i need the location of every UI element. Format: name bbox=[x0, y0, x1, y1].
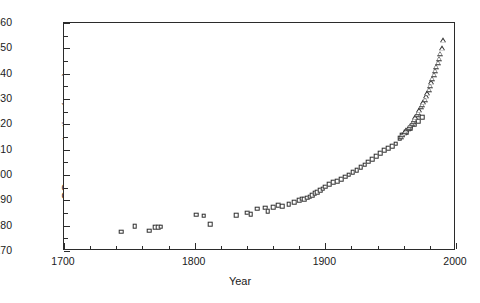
x-axis-tick-label: 1700 bbox=[51, 256, 74, 267]
y-axis-tick-label: 360 bbox=[0, 17, 12, 28]
data-point-square bbox=[318, 188, 323, 193]
x-axis-minor-tick bbox=[299, 246, 300, 250]
y-axis-tick-label: 300 bbox=[0, 169, 12, 180]
data-point-triangle bbox=[420, 100, 426, 105]
y-axis-minor-tick bbox=[64, 86, 68, 87]
data-point-square bbox=[194, 212, 199, 217]
data-point-square bbox=[394, 141, 399, 146]
data-point-triangle bbox=[423, 94, 429, 99]
data-point-square bbox=[366, 160, 371, 165]
data-point-square bbox=[347, 172, 352, 177]
data-point-square bbox=[331, 180, 336, 185]
data-point-square bbox=[378, 151, 383, 156]
data-point-square bbox=[119, 229, 124, 234]
data-point-square bbox=[370, 157, 375, 162]
data-point-square bbox=[374, 154, 379, 159]
data-point-square bbox=[416, 119, 421, 124]
data-point-square bbox=[420, 115, 425, 120]
data-point-square bbox=[358, 165, 363, 170]
data-point-square bbox=[339, 177, 344, 182]
data-point-square bbox=[315, 190, 320, 195]
data-point-square bbox=[297, 198, 302, 203]
x-axis-tick-label: 2000 bbox=[443, 256, 466, 267]
x-axis-minor-tick bbox=[378, 246, 379, 250]
y-axis-tick-label: 310 bbox=[0, 144, 12, 155]
y-axis-major-tick bbox=[64, 150, 70, 151]
x-axis-minor-tick bbox=[273, 246, 274, 250]
data-point-triangle bbox=[427, 83, 433, 88]
y-axis-tick-label: 290 bbox=[0, 194, 12, 205]
data-point-square bbox=[245, 210, 250, 215]
data-point-triangle bbox=[406, 125, 412, 130]
y-axis-major-tick bbox=[64, 226, 70, 227]
data-point-triangle bbox=[414, 112, 420, 117]
data-point-triangle bbox=[433, 64, 439, 69]
data-point-square bbox=[208, 222, 213, 227]
data-point-triangle bbox=[409, 121, 415, 126]
data-point-triangle bbox=[415, 110, 421, 115]
y-axis-major-tick bbox=[64, 48, 70, 49]
data-point-square bbox=[255, 206, 260, 211]
data-point-square bbox=[302, 197, 307, 202]
data-point-square bbox=[234, 213, 239, 218]
data-point-triangle bbox=[432, 68, 438, 73]
data-point-triangle bbox=[416, 108, 422, 113]
y-axis-tick-label: 320 bbox=[0, 118, 12, 129]
data-point-square bbox=[327, 182, 332, 187]
data-point-square bbox=[156, 225, 161, 230]
y-axis-minor-tick bbox=[64, 137, 68, 138]
data-point-triangle bbox=[418, 104, 424, 109]
x-axis-minor-tick bbox=[351, 246, 352, 250]
data-point-square bbox=[158, 224, 163, 229]
data-point-triangle bbox=[439, 46, 445, 51]
data-point-triangle bbox=[398, 134, 404, 139]
data-point-square bbox=[280, 204, 285, 209]
x-axis-major-tick bbox=[456, 243, 457, 249]
x-axis-minor-tick bbox=[90, 246, 91, 250]
plot-area bbox=[64, 23, 454, 249]
y-axis-major-tick bbox=[64, 99, 70, 100]
data-point-square bbox=[404, 130, 409, 135]
data-point-square bbox=[263, 205, 268, 210]
data-point-square bbox=[147, 228, 152, 233]
x-axis-major-tick bbox=[325, 243, 326, 249]
y-axis-minor-tick bbox=[64, 238, 68, 239]
y-axis-minor-tick bbox=[64, 188, 68, 189]
data-point-square bbox=[310, 193, 315, 198]
data-point-triangle bbox=[401, 131, 407, 136]
data-point-triangle bbox=[436, 56, 442, 61]
data-point-triangle bbox=[410, 119, 416, 124]
data-point-square bbox=[202, 213, 207, 218]
data-point-triangle bbox=[405, 126, 411, 131]
data-point-triangle bbox=[403, 128, 409, 133]
data-point-square bbox=[350, 170, 355, 175]
data-point-square bbox=[343, 174, 348, 179]
y-axis-tick-label: 280 bbox=[0, 220, 12, 231]
data-point-square bbox=[400, 132, 405, 137]
data-point-triangle bbox=[399, 132, 405, 137]
y-axis-tick-label: 270 bbox=[0, 245, 12, 256]
y-axis-tick-label: 330 bbox=[0, 93, 12, 104]
data-point-square bbox=[292, 200, 297, 205]
y-axis-major-tick bbox=[64, 251, 70, 252]
x-axis-minor-tick bbox=[169, 246, 170, 250]
data-point-square bbox=[362, 163, 367, 168]
x-axis-major-tick bbox=[195, 243, 196, 249]
co2-concentration-chart: CO2 concentration (ppmv) Year 2702802903… bbox=[0, 0, 480, 303]
data-point-triangle bbox=[431, 72, 437, 77]
data-point-square bbox=[354, 168, 359, 173]
x-axis-tick-label: 1800 bbox=[182, 256, 205, 267]
data-point-square bbox=[335, 179, 340, 184]
data-point-square bbox=[271, 205, 276, 210]
data-point-square bbox=[132, 224, 137, 229]
data-point-triangle bbox=[402, 129, 408, 134]
data-point-square bbox=[398, 136, 403, 141]
y-axis-major-tick bbox=[64, 74, 70, 75]
y-axis-major-tick bbox=[64, 124, 70, 125]
data-point-square bbox=[323, 184, 328, 189]
y-axis-minor-tick bbox=[64, 61, 68, 62]
data-point-square bbox=[386, 146, 391, 151]
data-point-triangle bbox=[426, 87, 432, 92]
data-point-triangle bbox=[428, 80, 434, 85]
y-axis-minor-tick bbox=[64, 162, 68, 163]
